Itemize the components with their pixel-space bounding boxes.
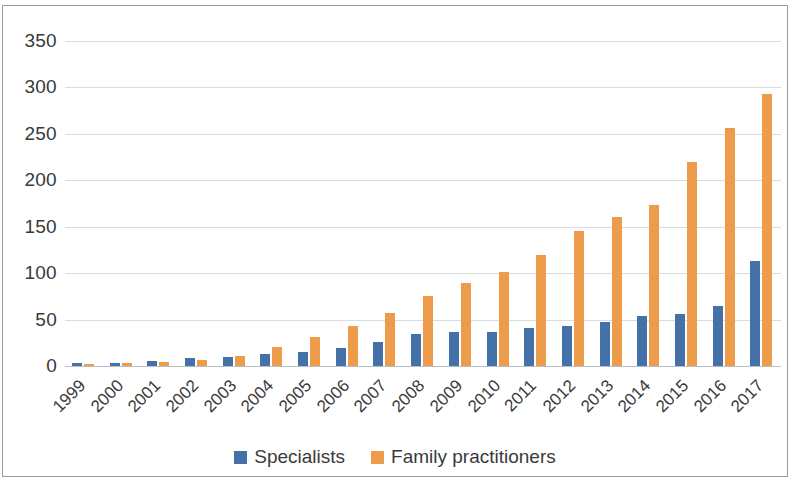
- bar-family-practitioners[interactable]: [687, 162, 697, 366]
- chart-container: 050100150200250300350 199920002001200220…: [2, 5, 788, 477]
- y-axis-tick-label: 300: [24, 76, 57, 98]
- x-axis-tick-label: 2009: [426, 376, 467, 417]
- legend-item-specialists[interactable]: Specialists: [234, 446, 345, 468]
- x-axis-tick-label: 2015: [652, 376, 693, 417]
- bar-family-practitioners[interactable]: [159, 362, 169, 366]
- legend-swatch-icon: [371, 451, 384, 464]
- bar-specialists[interactable]: [223, 357, 233, 366]
- bar-specialists[interactable]: [147, 361, 157, 366]
- bar-family-practitioners[interactable]: [197, 360, 207, 367]
- bar-specialists[interactable]: [72, 363, 82, 366]
- y-axis-tick-label: 350: [24, 30, 57, 52]
- legend-label: Family practitioners: [391, 446, 556, 468]
- x-axis-tick-label: 2011: [501, 376, 541, 416]
- bar-family-practitioners[interactable]: [348, 326, 358, 366]
- x-axis: 1999200020012002200320042005200620072008…: [65, 368, 781, 438]
- bar-specialists[interactable]: [449, 332, 459, 366]
- x-axis-tick-label: 2000: [87, 376, 128, 417]
- bar-family-practitioners[interactable]: [574, 231, 584, 366]
- bar-specialists[interactable]: [260, 354, 270, 366]
- bar-family-practitioners[interactable]: [461, 283, 471, 366]
- bar-family-practitioners[interactable]: [725, 128, 735, 366]
- bar-family-practitioners[interactable]: [84, 364, 94, 366]
- bar-specialists[interactable]: [600, 322, 610, 366]
- y-axis-tick-label: 150: [24, 216, 57, 238]
- bar-family-practitioners[interactable]: [612, 217, 622, 366]
- y-axis-tick-label: 250: [24, 123, 57, 145]
- legend-item-family-practitioners[interactable]: Family practitioners: [371, 446, 556, 468]
- bar-specialists[interactable]: [487, 332, 497, 366]
- bar-specialists[interactable]: [524, 328, 534, 366]
- bar-specialists[interactable]: [185, 358, 195, 366]
- x-axis-tick-label: 2006: [313, 376, 354, 417]
- bar-specialists[interactable]: [637, 316, 647, 366]
- x-axis-tick-label: 2003: [200, 376, 241, 417]
- bar-family-practitioners[interactable]: [499, 272, 509, 366]
- bar-family-practitioners[interactable]: [536, 255, 546, 366]
- bar-specialists[interactable]: [750, 261, 760, 366]
- x-axis-tick-label: 2008: [388, 376, 429, 417]
- x-axis-tick-label: 2007: [351, 376, 392, 417]
- x-axis-tick-label: 2017: [727, 376, 768, 417]
- bar-specialists[interactable]: [298, 352, 308, 366]
- y-axis-tick-label: 0: [46, 355, 57, 377]
- bar-family-practitioners[interactable]: [235, 356, 245, 366]
- bar-family-practitioners[interactable]: [762, 94, 772, 366]
- bar-family-practitioners[interactable]: [272, 347, 282, 367]
- legend-swatch-icon: [234, 451, 247, 464]
- x-axis-tick-label: 2012: [539, 376, 580, 417]
- y-axis-tick-label: 50: [35, 309, 57, 331]
- x-axis-tick-label: 2002: [162, 376, 203, 417]
- bar-specialists[interactable]: [675, 314, 685, 366]
- bar-specialists[interactable]: [373, 342, 383, 366]
- bar-specialists[interactable]: [110, 363, 120, 366]
- legend-label: Specialists: [254, 446, 345, 468]
- bar-specialists[interactable]: [411, 334, 421, 366]
- x-axis-tick-label: 2005: [275, 376, 316, 417]
- chart-legend: SpecialistsFamily practitioners: [3, 446, 787, 468]
- bar-family-practitioners[interactable]: [423, 296, 433, 366]
- bar-specialists[interactable]: [562, 326, 572, 366]
- x-axis-tick-label: 2013: [577, 376, 618, 417]
- y-axis-tick-label: 200: [24, 169, 57, 191]
- y-axis-tick-label: 100: [24, 262, 57, 284]
- bar-family-practitioners[interactable]: [310, 337, 320, 366]
- x-axis-tick-label: 2014: [614, 376, 655, 417]
- x-axis-tick-label: 2001: [124, 376, 165, 417]
- plot-area: 050100150200250300350 199920002001200220…: [3, 6, 787, 476]
- bar-specialists[interactable]: [713, 306, 723, 366]
- bar-family-practitioners[interactable]: [385, 313, 395, 366]
- x-axis-tick-label: 2016: [690, 376, 731, 417]
- x-axis-tick-label: 2010: [464, 376, 505, 417]
- bar-specialists[interactable]: [336, 348, 346, 366]
- bar-family-practitioners[interactable]: [122, 363, 132, 366]
- x-axis-tick-label: 2004: [237, 376, 278, 417]
- bar-family-practitioners[interactable]: [649, 205, 659, 366]
